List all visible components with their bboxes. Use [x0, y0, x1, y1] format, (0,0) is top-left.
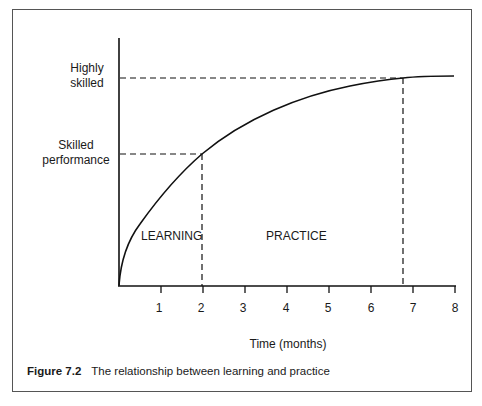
figure-caption-text: The relationship between learning and pr…	[91, 365, 329, 377]
figure-number: Figure 7.2	[27, 365, 81, 377]
svg-text:3: 3	[240, 301, 247, 315]
practice-label: PRACTICE	[266, 229, 327, 243]
svg-text:4: 4	[283, 301, 290, 315]
x-tick-labels: 1 2 3 4 5 6 7 8 Time (months)	[156, 301, 459, 351]
figure-caption: Figure 7.2The relationship between learn…	[27, 365, 330, 377]
y-label-highly-skilled: Highly skilled	[62, 61, 112, 91]
svg-text:8: 8	[452, 301, 459, 315]
skill-curve	[119, 76, 454, 285]
svg-text:6: 6	[368, 301, 375, 315]
x-axis-label: Time (months)	[250, 337, 327, 351]
learning-label: LEARNING	[141, 229, 202, 243]
region-annotations: LEARNING PRACTICE	[141, 229, 327, 243]
x-ticks	[161, 286, 455, 293]
svg-text:7: 7	[410, 301, 417, 315]
y-label-skilled-performance: Skilled performance	[38, 138, 114, 168]
svg-text:2: 2	[198, 301, 205, 315]
reference-lines	[120, 78, 403, 286]
svg-text:5: 5	[325, 301, 332, 315]
svg-text:1: 1	[156, 301, 163, 315]
